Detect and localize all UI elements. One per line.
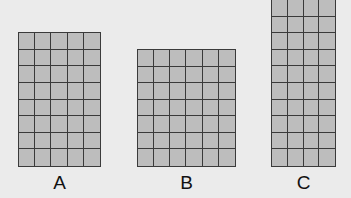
grid-cell bbox=[51, 133, 67, 150]
grid-cell bbox=[68, 33, 84, 50]
grid-cell bbox=[19, 100, 35, 117]
grid-cell bbox=[138, 50, 154, 67]
grid-cell bbox=[304, 133, 320, 150]
grid-cell bbox=[319, 83, 335, 100]
grid-cell bbox=[304, 149, 320, 166]
grid-a bbox=[18, 32, 101, 167]
grid-cell bbox=[304, 0, 320, 17]
grid-cell bbox=[319, 33, 335, 50]
grid-cell bbox=[272, 100, 288, 117]
grid-cell bbox=[51, 83, 67, 100]
grid-cell bbox=[154, 67, 170, 84]
grid-cell bbox=[272, 116, 288, 133]
grid-cell bbox=[51, 100, 67, 117]
grid-cell bbox=[35, 116, 51, 133]
grid-cell bbox=[35, 33, 51, 50]
grid-cell bbox=[186, 83, 202, 100]
grid-cell bbox=[186, 116, 202, 133]
grid-cell bbox=[304, 100, 320, 117]
grid-cell bbox=[272, 0, 288, 17]
grid-cell bbox=[170, 83, 186, 100]
grid-cell bbox=[219, 116, 235, 133]
grid-cell bbox=[138, 100, 154, 117]
grid-cell bbox=[68, 149, 84, 166]
grid-cell bbox=[288, 50, 304, 67]
grid-cell bbox=[319, 133, 335, 150]
grid-cell bbox=[68, 116, 84, 133]
grid-cell bbox=[219, 50, 235, 67]
grid-cell bbox=[304, 83, 320, 100]
grid-cell bbox=[304, 116, 320, 133]
grid-cell bbox=[51, 149, 67, 166]
grid-cell bbox=[219, 83, 235, 100]
grid-cell bbox=[138, 67, 154, 84]
label-b: B bbox=[167, 172, 207, 194]
grid-cell bbox=[35, 149, 51, 166]
grid-cell bbox=[186, 50, 202, 67]
grid-cell bbox=[219, 67, 235, 84]
grid-cell bbox=[19, 50, 35, 67]
grid-cell bbox=[84, 116, 100, 133]
grid-cell bbox=[51, 50, 67, 67]
grid-cell bbox=[84, 50, 100, 67]
grid-cell bbox=[19, 66, 35, 83]
grid-cell bbox=[51, 33, 67, 50]
grid-cell bbox=[319, 100, 335, 117]
grid-cell bbox=[272, 50, 288, 67]
grid-cell bbox=[154, 133, 170, 150]
grid-cell bbox=[154, 149, 170, 166]
grid-cell bbox=[19, 149, 35, 166]
grid-c bbox=[271, 0, 336, 167]
grid-cell bbox=[68, 66, 84, 83]
grid-cell bbox=[68, 100, 84, 117]
grid-cell bbox=[319, 0, 335, 17]
grid-cell bbox=[170, 116, 186, 133]
grid-cell bbox=[154, 50, 170, 67]
grid-cell bbox=[288, 17, 304, 34]
grid-cell bbox=[219, 100, 235, 117]
grid-cell bbox=[319, 149, 335, 166]
grid-cell bbox=[304, 66, 320, 83]
grid-cell bbox=[138, 116, 154, 133]
grid-cell bbox=[138, 133, 154, 150]
grid-cell bbox=[272, 17, 288, 34]
grid-cell bbox=[203, 149, 219, 166]
grid-cell bbox=[319, 116, 335, 133]
grid-cell bbox=[186, 100, 202, 117]
grid-cell bbox=[154, 116, 170, 133]
grid-cell bbox=[203, 133, 219, 150]
grid-cell bbox=[19, 83, 35, 100]
grid-cell bbox=[304, 50, 320, 67]
grid-cell bbox=[35, 133, 51, 150]
grid-cell bbox=[272, 33, 288, 50]
grid-cell bbox=[319, 17, 335, 34]
grid-cell bbox=[288, 33, 304, 50]
grid-cell bbox=[84, 100, 100, 117]
grid-cell bbox=[219, 133, 235, 150]
grid-cell bbox=[272, 133, 288, 150]
grid-cell bbox=[154, 83, 170, 100]
grid-cell bbox=[170, 67, 186, 84]
grid-cell bbox=[170, 100, 186, 117]
grid-cell bbox=[84, 66, 100, 83]
grid-cell bbox=[84, 33, 100, 50]
grid-cell bbox=[203, 83, 219, 100]
grid-b bbox=[137, 49, 236, 167]
grid-cell bbox=[68, 50, 84, 67]
grid-cell bbox=[68, 133, 84, 150]
grid-cell bbox=[272, 83, 288, 100]
grid-cell bbox=[203, 100, 219, 117]
grid-cell bbox=[35, 50, 51, 67]
grid-cell bbox=[138, 149, 154, 166]
grid-cell bbox=[304, 17, 320, 34]
grid-cell bbox=[186, 133, 202, 150]
grid-cell bbox=[288, 83, 304, 100]
grid-cell bbox=[319, 50, 335, 67]
grid-cell bbox=[186, 67, 202, 84]
grid-cell bbox=[170, 149, 186, 166]
label-a: A bbox=[40, 172, 80, 194]
grid-cell bbox=[288, 133, 304, 150]
grid-cell bbox=[19, 116, 35, 133]
grid-cell bbox=[203, 50, 219, 67]
grid-cell bbox=[272, 66, 288, 83]
